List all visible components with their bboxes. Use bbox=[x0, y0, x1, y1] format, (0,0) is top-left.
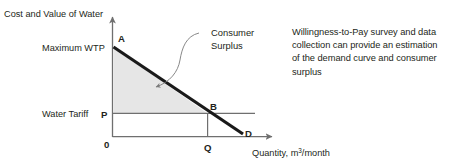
origin-label: 0 bbox=[104, 139, 109, 150]
figure-canvas: Cost and Value of Water Quantity, m3/mon… bbox=[0, 0, 451, 168]
x-axis-title-main: Quantity, m bbox=[252, 148, 299, 158]
max-wtp-label: Maximum WTP bbox=[42, 43, 105, 53]
explanatory-note: Willingness-to-Pay survey and data colle… bbox=[292, 26, 444, 79]
price-point-label: P bbox=[101, 109, 108, 120]
quantity-point-label: Q bbox=[204, 142, 212, 153]
consumer-surplus-annotation-line1: Consumer bbox=[211, 27, 254, 38]
point-d-label: D bbox=[245, 128, 252, 139]
x-axis-title: Quantity, m3/month bbox=[252, 147, 330, 158]
consumer-surplus-annotation-line2: Surplus bbox=[211, 40, 243, 51]
point-b-label: B bbox=[210, 101, 217, 112]
y-axis-title: Cost and Value of Water bbox=[4, 9, 103, 19]
x-axis-title-tail: /month bbox=[302, 148, 330, 158]
water-tariff-label: Water Tariff bbox=[42, 109, 89, 119]
point-a-label: A bbox=[118, 33, 125, 44]
